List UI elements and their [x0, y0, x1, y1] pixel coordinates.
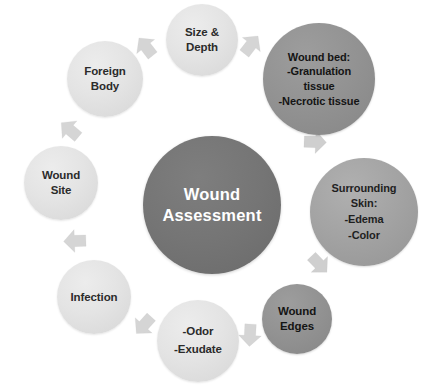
node-wound-site-line-2: Site [28, 183, 94, 198]
node-wound-bed-line-1: Wound bed: [267, 50, 371, 65]
node-wound-edges-line-1: Wound [266, 304, 328, 319]
node-odor-exudate-line-2: -Exudate [161, 341, 235, 359]
flow-arrow-wound-edges-to-odor-exudate [236, 321, 263, 348]
node-surrounding-skin-line-1: Surrounding [314, 181, 414, 197]
node-surrounding-skin-line-4: -Color [314, 228, 414, 244]
node-wound-site-line-1: Wound [28, 168, 94, 183]
flow-arrow-wound-site-to-foreign-body [52, 112, 89, 149]
node-surrounding-skin-line-2: Skin: [314, 196, 414, 212]
node-foreign-body-line-2: Body [71, 79, 139, 94]
flow-arrow-infection-to-wound-site [62, 228, 89, 255]
wound-assessment-diagram: Size & Depth Wound bed: -Granulation tis… [0, 0, 428, 388]
node-foreign-body[interactable]: Foreign Body [67, 41, 143, 117]
node-wound-edges[interactable]: Wound Edges [262, 284, 332, 354]
node-odor-exudate-line-1: -Odor [161, 323, 235, 341]
node-wound-edges-line-2: Edges [266, 319, 328, 334]
node-foreign-body-line-1: Foreign [71, 64, 139, 79]
node-wound-bed-line-2: -Granulation [267, 64, 371, 79]
node-wound-bed[interactable]: Wound bed: -Granulation tissue -Necrotic… [263, 23, 375, 135]
node-wound-bed-line-3: tissue [267, 79, 371, 94]
node-wound-site[interactable]: Wound Site [24, 146, 98, 220]
node-wound-bed-line-4: -Necrotic tissue [267, 94, 371, 109]
node-size-depth[interactable]: Size & Depth [166, 4, 238, 76]
node-infection-line-1: Infection [61, 290, 127, 305]
node-size-depth-line-2: Depth [170, 40, 234, 55]
node-wound-assessment-center[interactable]: Wound Assessment [143, 136, 281, 274]
center-title-line-1: Wound [147, 184, 277, 205]
node-infection[interactable]: Infection [57, 260, 131, 334]
center-title-line-2: Assessment [147, 205, 277, 226]
node-odor-exudate[interactable]: -Odor -Exudate [157, 300, 239, 382]
node-surrounding-skin[interactable]: Surrounding Skin: -Edema -Color [310, 158, 418, 266]
node-surrounding-skin-line-3: -Edema [314, 212, 414, 228]
node-size-depth-line-1: Size & [170, 25, 234, 40]
